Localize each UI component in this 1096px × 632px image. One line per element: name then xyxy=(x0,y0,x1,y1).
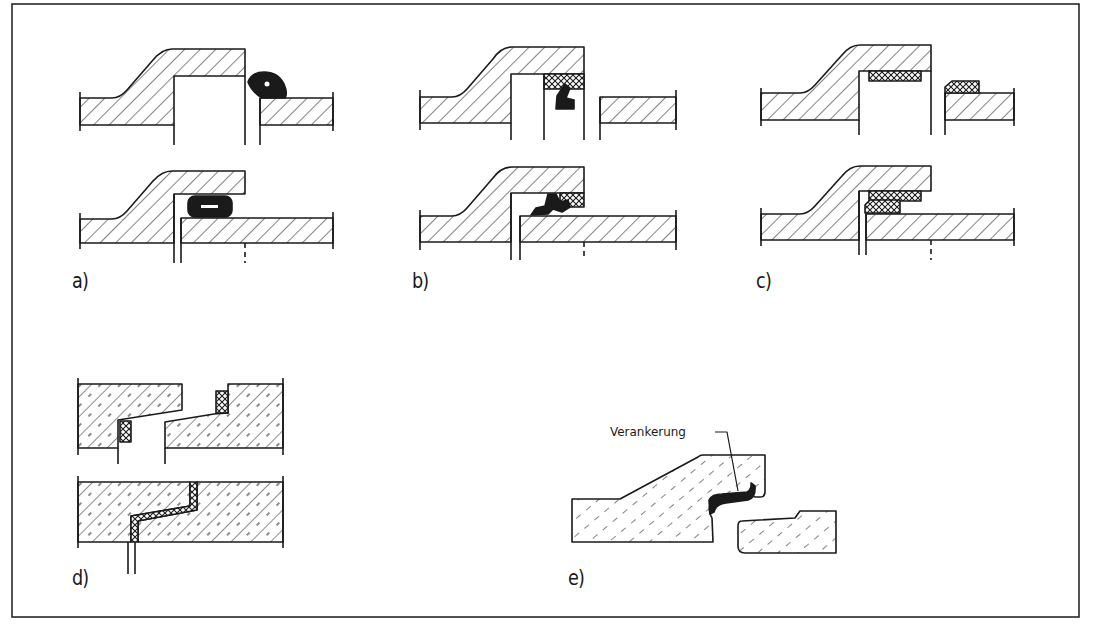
panel-d xyxy=(78,378,283,574)
panel-label-b: b) xyxy=(412,268,428,293)
panel-b xyxy=(420,47,676,260)
panel-label-e: e) xyxy=(568,565,584,590)
panel-e xyxy=(572,432,836,553)
panel-label-c: c) xyxy=(756,268,771,293)
callout-anchoring-label: Verankerung xyxy=(610,424,686,439)
panel-label-a: a) xyxy=(72,268,88,293)
panel-a xyxy=(80,49,333,263)
diagram-canvas xyxy=(0,0,1096,632)
panel-c xyxy=(761,45,1014,260)
panel-label-d: d) xyxy=(72,565,88,590)
pipe-joint-figure: a) b) c) d) e) Verankerung xyxy=(0,0,1096,632)
